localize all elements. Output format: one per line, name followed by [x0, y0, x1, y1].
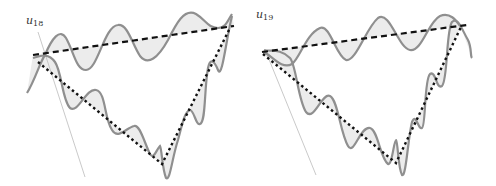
figure-canvas: u18 u19 — [0, 0, 496, 186]
panel-u18: u18 — [26, 13, 234, 179]
shaded-region-upper — [262, 15, 467, 66]
panel-label-u19: u19 — [256, 8, 273, 22]
wavy-curve-lower — [264, 21, 472, 176]
dashed-chord — [262, 25, 467, 52]
shaded-region-lower — [263, 21, 472, 176]
panel-u19: u19 — [256, 8, 472, 175]
panel-label-u18: u18 — [26, 14, 43, 28]
